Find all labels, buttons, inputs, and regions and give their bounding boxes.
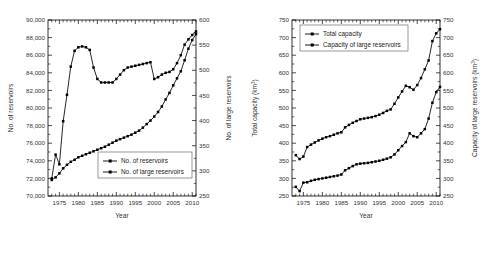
data-point xyxy=(317,139,320,142)
x-tick-label: 1975 xyxy=(297,199,311,206)
data-point xyxy=(142,63,145,66)
data-point xyxy=(149,61,152,64)
data-point xyxy=(317,178,320,181)
data-point xyxy=(58,163,61,166)
data-point xyxy=(386,157,389,160)
data-point xyxy=(336,132,339,135)
data-point xyxy=(111,141,114,144)
data-point xyxy=(138,129,141,132)
data-point xyxy=(340,173,343,176)
data-point xyxy=(374,115,377,118)
y2-tick-label: 400 xyxy=(199,117,210,124)
data-point xyxy=(424,68,427,71)
y-tick-label: 500 xyxy=(279,104,290,111)
data-point xyxy=(130,65,133,68)
y2-tick-label: 350 xyxy=(199,142,210,149)
data-point xyxy=(367,162,370,165)
y2-axis-title: No. of large reservoirs xyxy=(225,75,233,141)
data-point xyxy=(389,108,392,111)
data-point xyxy=(187,47,190,50)
y-tick-label: 84,000 xyxy=(26,69,45,76)
data-point xyxy=(172,68,175,71)
data-point xyxy=(81,155,84,158)
data-point xyxy=(85,153,88,156)
data-point xyxy=(389,156,392,159)
legend-swatch-marker xyxy=(311,33,314,36)
data-point xyxy=(115,78,118,81)
data-point xyxy=(195,33,198,36)
data-point xyxy=(58,172,61,175)
data-point xyxy=(138,64,141,67)
y2-tick-label: 450 xyxy=(443,122,454,129)
data-point xyxy=(393,103,396,106)
data-point xyxy=(180,70,183,73)
data-point xyxy=(153,115,156,118)
data-point xyxy=(382,112,385,115)
data-point xyxy=(81,45,84,48)
data-point xyxy=(397,96,400,99)
data-point xyxy=(96,148,99,151)
series-line-1 xyxy=(296,87,440,191)
x-tick-label: 1995 xyxy=(372,199,386,206)
data-point xyxy=(123,136,126,139)
data-point xyxy=(310,180,313,183)
data-point xyxy=(157,111,160,114)
data-point xyxy=(405,141,408,144)
data-point xyxy=(325,176,328,179)
y-tick-label: 600 xyxy=(279,69,290,76)
reservoir-counts-chart: 19751980198519901995200020052010Year70,0… xyxy=(0,0,244,255)
data-point xyxy=(370,116,373,119)
x-tick-label: 2010 xyxy=(185,199,199,206)
y-tick-label: 82,000 xyxy=(26,87,45,94)
data-point xyxy=(435,32,438,35)
data-point xyxy=(107,81,110,84)
x-tick-label: 1995 xyxy=(128,199,142,206)
y-tick-label: 650 xyxy=(279,51,290,58)
y-tick-label: 700 xyxy=(279,34,290,41)
y-tick-label: 750 xyxy=(279,16,290,23)
data-point xyxy=(363,162,366,165)
x-tick-label: 1980 xyxy=(71,199,85,206)
y-tick-label: 74,000 xyxy=(26,157,45,164)
y-tick-label: 550 xyxy=(279,87,290,94)
data-point xyxy=(149,119,152,122)
data-point xyxy=(351,122,354,125)
data-point xyxy=(107,143,110,146)
data-point xyxy=(367,117,370,120)
data-point xyxy=(314,179,317,182)
data-point xyxy=(88,49,91,52)
data-point xyxy=(168,92,171,95)
data-point xyxy=(408,86,411,89)
data-point xyxy=(405,85,408,88)
data-point xyxy=(66,94,69,97)
data-point xyxy=(92,66,95,69)
data-point xyxy=(416,136,419,139)
data-point xyxy=(382,158,385,161)
x-tick-label: 1985 xyxy=(334,199,348,206)
data-point xyxy=(161,73,164,76)
y-tick-label: 400 xyxy=(279,139,290,146)
data-point xyxy=(420,77,423,80)
data-point xyxy=(401,145,404,148)
y2-tick-label: 500 xyxy=(443,104,454,111)
data-point xyxy=(134,131,137,134)
data-point xyxy=(92,150,95,153)
legend-label: No. of large reservoirs xyxy=(121,168,184,176)
data-point xyxy=(66,164,69,167)
data-point xyxy=(295,186,298,189)
x-tick-label: 2005 xyxy=(166,199,180,206)
data-point xyxy=(420,132,423,135)
data-point xyxy=(363,117,366,120)
y2-tick-label: 250 xyxy=(199,192,210,199)
y-tick-label: 300 xyxy=(279,175,290,182)
x-axis-title: Year xyxy=(115,212,129,219)
data-point xyxy=(412,135,415,138)
data-point xyxy=(431,101,434,104)
y2-tick-label: 600 xyxy=(199,16,210,23)
data-point xyxy=(321,137,324,140)
data-point xyxy=(54,176,57,179)
y2-tick-label: 700 xyxy=(443,34,454,41)
y-axis-title: Total capacity (km3) xyxy=(251,79,259,137)
data-point xyxy=(73,50,76,53)
data-point xyxy=(180,54,183,57)
